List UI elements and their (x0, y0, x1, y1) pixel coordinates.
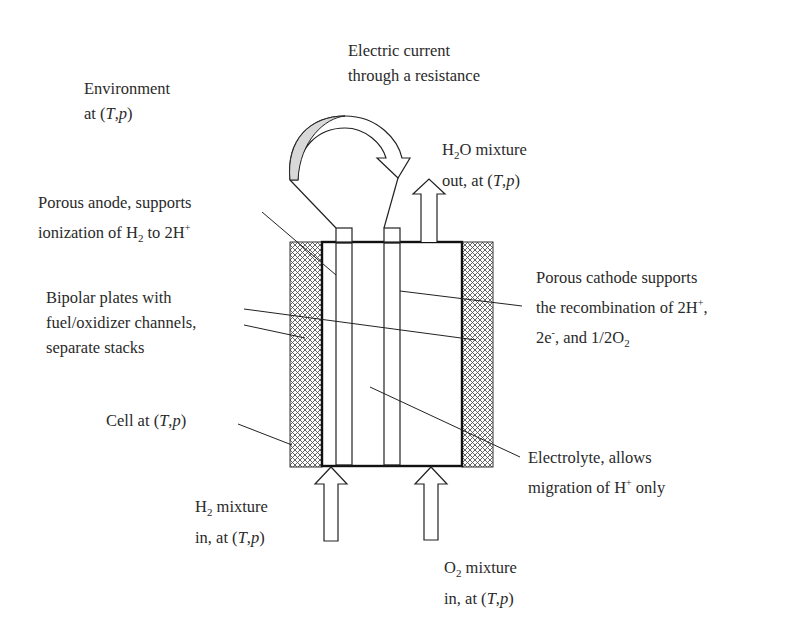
h2-inlet-arrow (315, 467, 347, 541)
bipolar-plate-right (462, 242, 493, 467)
label-h2-in: H2 mixture in, at (T,p) (195, 494, 268, 550)
label-cell: Cell at (T,p) (106, 408, 186, 433)
label-h2o-out: H2O mixture out, at (T,p) (442, 137, 527, 193)
anode-terminal (336, 228, 352, 242)
label-porous-anode: Porous anode, supports ionization of H2 … (38, 190, 192, 251)
anode-wire (290, 180, 336, 228)
h2o-outlet-arrow (413, 179, 445, 242)
cathode-wire (384, 178, 398, 228)
cell-enclosure (322, 242, 462, 466)
label-electrolyte: Electrolyte, allows migration of H+ only (528, 445, 665, 500)
environment-condition: at (T,p) (84, 101, 170, 126)
label-porous-cathode: Porous cathode supports the recombinatio… (536, 265, 708, 355)
o2-inlet-arrow (415, 467, 447, 540)
cathode-terminal (384, 228, 400, 242)
label-o2-in: O2 mixture in, at (T,p) (444, 555, 517, 611)
label-electric-current: Electric current through a resistance (348, 38, 480, 88)
external-circuit-arrow (290, 116, 410, 180)
label-environment: Environment at (T,p) (84, 76, 170, 126)
label-bipolar-plates: Bipolar plates with fuel/oxidizer channe… (46, 285, 196, 360)
bipolar-plate-left (290, 242, 322, 467)
